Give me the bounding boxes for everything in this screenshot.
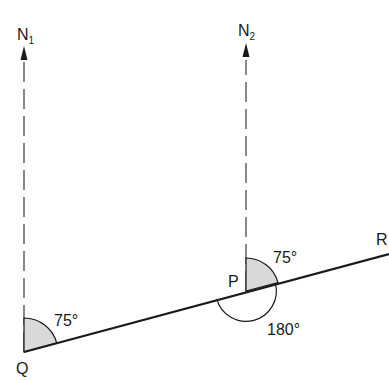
label-n2: N2 bbox=[238, 22, 256, 42]
angle-label-p-bearing: 75° bbox=[273, 249, 297, 266]
north-line-n1 bbox=[21, 46, 28, 352]
angle-label-q: 75° bbox=[54, 312, 78, 329]
label-q: Q bbox=[16, 360, 28, 377]
label-p: P bbox=[228, 273, 239, 290]
bearing-diagram: N1 N2 Q P R 75° 75° 180° bbox=[0, 0, 389, 380]
arrow-up-icon bbox=[21, 46, 28, 60]
north-line-n2 bbox=[243, 43, 250, 291]
angle-label-p-back: 180° bbox=[267, 321, 300, 338]
arrow-up-icon bbox=[243, 43, 250, 57]
label-r: R bbox=[376, 231, 388, 248]
line-qr bbox=[24, 254, 389, 352]
label-n1: N1 bbox=[17, 26, 35, 46]
